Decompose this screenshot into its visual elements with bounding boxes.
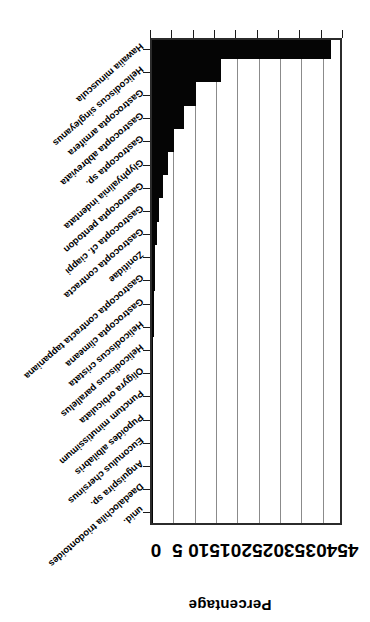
- bar: [152, 500, 153, 523]
- value-axis-title: Percentage: [140, 597, 320, 614]
- bar: [152, 129, 174, 152]
- value-axis-tick-labels: 051015202530354045: [144, 530, 346, 560]
- value-tickmark: [171, 30, 172, 38]
- value-tickmark: [257, 30, 258, 38]
- bar: [152, 337, 153, 360]
- bar: [152, 314, 154, 337]
- gridline: [195, 40, 196, 523]
- bar-chart-figure: Percentage 051015202530354045 Hawaiia mi…: [0, 0, 370, 622]
- gridline: [301, 40, 302, 523]
- gridline: [323, 40, 324, 523]
- category-axis-labels: Hawaiia minusculaHelicodiscus singleyanu…: [0, 0, 142, 622]
- value-tickmark: [299, 30, 300, 38]
- gridline: [237, 40, 238, 523]
- bar: [152, 106, 184, 129]
- bar: [152, 152, 168, 175]
- bar: [152, 222, 157, 245]
- value-tick-label: 45: [333, 540, 363, 560]
- bar: [152, 477, 153, 500]
- gridline: [259, 40, 260, 523]
- bar: [152, 430, 153, 453]
- bar: [152, 291, 154, 314]
- category-label: unid.: [122, 505, 146, 527]
- rotated-figure-wrapper: Percentage 051015202530354045 Hawaiia mi…: [0, 0, 370, 622]
- bar: [152, 361, 153, 384]
- value-axis-tickmarks: [150, 29, 342, 38]
- bar: [152, 198, 159, 221]
- bar: [152, 175, 163, 198]
- bar: [152, 245, 155, 268]
- bar: [152, 384, 153, 407]
- value-tickmark: [150, 30, 151, 38]
- bar: [152, 268, 155, 291]
- bar: [152, 453, 153, 476]
- bar: [152, 407, 153, 430]
- value-tickmark: [278, 30, 279, 38]
- gridline: [216, 40, 217, 523]
- bar: [152, 59, 221, 82]
- value-tickmark: [193, 30, 194, 38]
- gridline: [280, 40, 281, 523]
- plot-area: [150, 38, 342, 525]
- bar: [152, 82, 196, 105]
- value-tickmark: [235, 30, 236, 38]
- value-tickmark: [342, 30, 343, 38]
- value-tickmark: [214, 30, 215, 38]
- bar: [152, 38, 331, 59]
- value-tickmark: [321, 30, 322, 38]
